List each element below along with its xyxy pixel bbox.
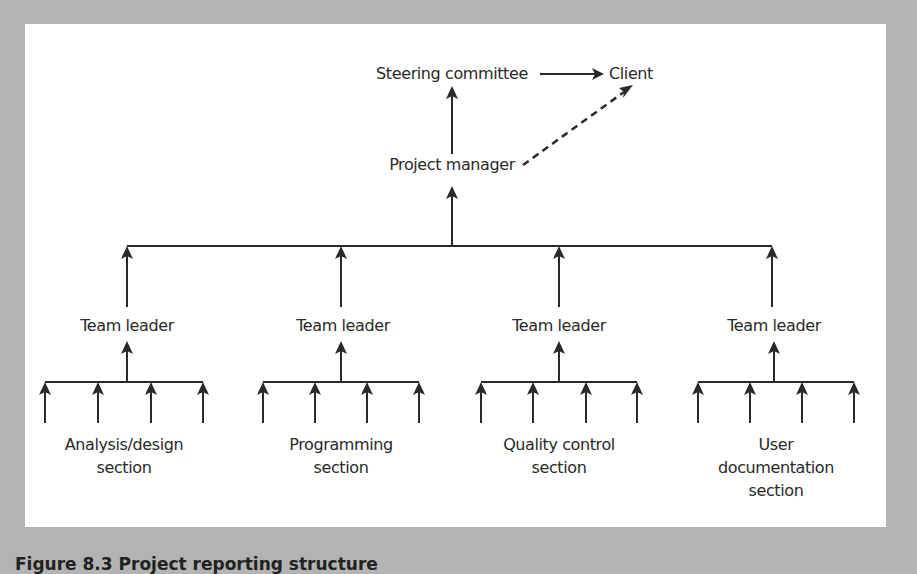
node-client: Client xyxy=(603,62,659,85)
section-quality-control: Quality control section xyxy=(489,433,629,479)
node-steering-committee: Steering committee xyxy=(366,62,538,85)
pm-to-client-dashed-line xyxy=(523,92,624,165)
arrowheads xyxy=(39,68,860,395)
figure-caption: Figure 8.3 Project reporting structure xyxy=(15,554,378,574)
node-team-leader-userdoc: Team leader xyxy=(719,314,829,337)
node-team-leader-programming: Team leader xyxy=(288,314,398,337)
node-team-leader-analysis: Team leader xyxy=(72,314,182,337)
section-programming: Programming section xyxy=(271,433,411,479)
node-project-manager: Project manager xyxy=(378,153,526,176)
section-user-documentation: User documentation section xyxy=(706,433,846,502)
node-team-leader-quality: Team leader xyxy=(504,314,614,337)
section-analysis-design: Analysis/design section xyxy=(54,433,194,479)
